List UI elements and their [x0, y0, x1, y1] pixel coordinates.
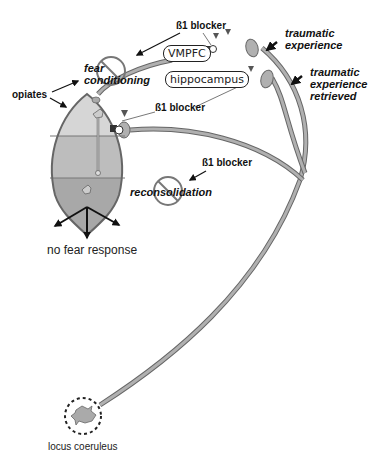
noradrenaline-triangle — [213, 33, 219, 39]
beta-blocker-label-top: ß1 blocker — [176, 20, 226, 31]
traumatic-experience-label: traumatic experience — [285, 27, 342, 51]
opiates-label: opiates — [12, 89, 47, 100]
arrow-opiates-to-fear — [52, 81, 78, 92]
arrow-traumatic-retrieved — [292, 76, 302, 84]
locus-coeruleus-label: locus coeruleus — [48, 441, 117, 452]
vmpfc-box: VMPFC — [163, 45, 211, 62]
fear-conditioning-label: fear conditioning — [84, 62, 164, 86]
reconsolidation-label: reconsolidation — [130, 186, 212, 198]
terminal-vmpfc — [244, 38, 260, 58]
noradrenaline-triangle — [121, 110, 128, 117]
noradrenaline-triangle — [248, 66, 254, 72]
pointer-blocker-top — [203, 33, 211, 45]
terminal-hippocampus — [259, 69, 275, 89]
beta-blocker-label-middle: ß1 blocker — [155, 102, 205, 113]
arrow-opiates-to-amygdala — [50, 98, 66, 107]
arrow-blocker-to-reconsolidation — [190, 171, 206, 180]
locus-coeruleus-neuron — [65, 398, 101, 434]
beta-blocker-label-reconsolidation: ß1 blocker — [202, 157, 252, 168]
traumatic-retrieved-label: traumatic experience retrieved — [310, 66, 367, 102]
arrow-traumatic-experience — [267, 42, 277, 50]
no-fear-response-label: no fear response — [47, 243, 137, 257]
hippocampus-box: hippocampus — [165, 71, 249, 88]
pointer-blocker-middle-2 — [122, 112, 155, 121]
